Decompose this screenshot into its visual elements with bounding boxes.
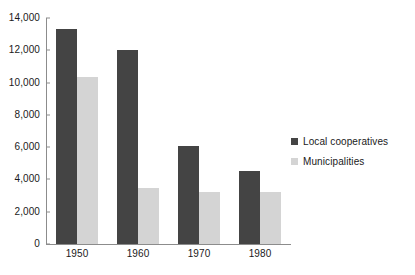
legend-label: Municipalities xyxy=(303,156,364,167)
plot-area xyxy=(46,18,290,244)
legend-swatch-icon xyxy=(291,138,298,145)
legend-item[interactable]: Municipalities xyxy=(291,151,415,171)
x-axis-tick-labels: 1950196019701980 xyxy=(46,248,290,264)
y-axis-tick-label: 2,000 xyxy=(14,207,46,217)
bar-chart: 02,0004,0006,0008,00010,00012,00014,000 … xyxy=(0,0,415,275)
bar-group xyxy=(239,18,281,244)
bar-group xyxy=(56,18,98,244)
y-axis-tick-label: 14,000 xyxy=(9,13,46,23)
bar xyxy=(178,146,199,244)
y-axis-tick-label: 4,000 xyxy=(14,174,46,184)
bar xyxy=(117,50,138,244)
bar-group xyxy=(178,18,220,244)
bar-group xyxy=(117,18,159,244)
bar xyxy=(77,77,98,244)
x-axis-line xyxy=(46,244,291,245)
y-axis-tick-label: 12,000 xyxy=(9,45,46,55)
legend-item[interactable]: Local cooperatives xyxy=(291,131,415,151)
x-axis-tick-label: 1960 xyxy=(117,248,159,260)
y-axis-tick-label: 8,000 xyxy=(14,110,46,120)
bar xyxy=(199,192,220,244)
y-axis-tick-label: 0 xyxy=(34,239,46,249)
legend-swatch-icon xyxy=(291,158,298,165)
bar xyxy=(138,188,159,244)
y-axis-tick-label: 10,000 xyxy=(9,78,46,88)
x-axis-tick-label: 1970 xyxy=(178,248,220,260)
x-axis-tick-label: 1980 xyxy=(239,248,281,260)
bar xyxy=(239,171,260,244)
chart-legend: Local cooperativesMunicipalities xyxy=(291,131,415,171)
y-axis-tick-label: 6,000 xyxy=(14,142,46,152)
legend-label: Local cooperatives xyxy=(303,136,388,147)
bar xyxy=(56,29,77,244)
bar xyxy=(260,192,281,244)
x-axis-tick-label: 1950 xyxy=(56,248,98,260)
